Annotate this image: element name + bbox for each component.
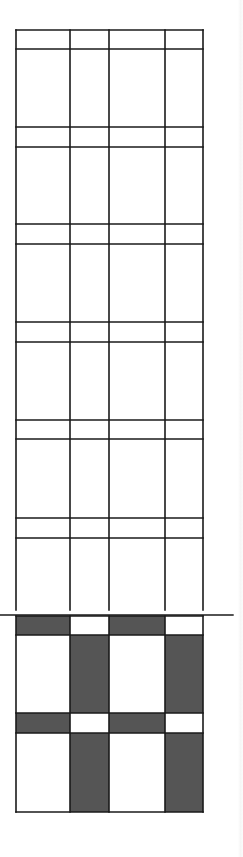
shaded-cell-r0-c0 [16,616,70,635]
shaded-cell-r1-c3 [165,635,203,713]
grid-diagram-svg [0,0,243,857]
shaded-cell-r2-c2 [109,713,165,733]
shaded-cell-r3-c1 [70,733,109,812]
scan-edge-artifact [238,0,243,857]
shaded-cell-r0-c2 [109,616,165,635]
shaded-cell-r1-c1 [70,635,109,713]
shaded-cell-r3-c3 [165,733,203,812]
upper-grid [16,30,203,610]
grid-diagram-figure [0,0,243,857]
shaded-cell-r2-c0 [16,713,70,733]
